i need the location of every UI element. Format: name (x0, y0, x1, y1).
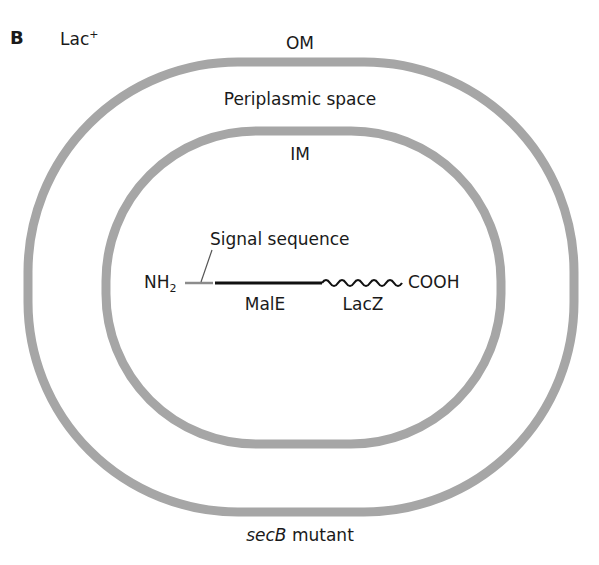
cell-diagram (0, 0, 599, 565)
c-terminus-label: COOH (408, 274, 459, 291)
n-terminus-subscript: 2 (170, 282, 177, 295)
caption-gene: secB (246, 525, 286, 545)
inner-membrane-label: IM (290, 146, 310, 163)
periplasmic-space-label: Periplasmic space (224, 91, 377, 108)
lacz-wavy-segment (322, 280, 402, 286)
caption: secB mutant (246, 527, 354, 544)
caption-rest: mutant (287, 525, 354, 545)
outer-membrane-label: OM (286, 35, 314, 52)
n-terminus-label: NH2 (144, 274, 177, 294)
phenotype-superscript: + (89, 28, 98, 41)
signal-sequence-label: Signal sequence (210, 231, 350, 248)
signal-sequence-leader (201, 250, 212, 282)
phenotype-base: Lac (60, 29, 89, 49)
n-terminus-base: NH (144, 272, 170, 292)
panel-letter: B (10, 29, 24, 47)
lacz-label: LacZ (343, 296, 384, 313)
male-label: MalE (245, 296, 286, 313)
phenotype-label: Lac+ (60, 29, 98, 48)
